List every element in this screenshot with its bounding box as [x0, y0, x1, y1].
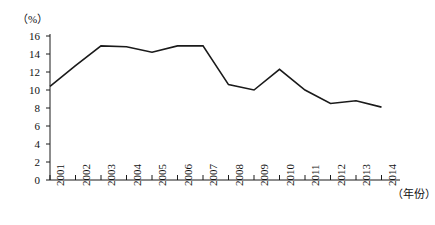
axes: [50, 34, 400, 180]
x-axis-tick-label: 2008: [234, 164, 245, 186]
x-axis-tick-label: 2010: [285, 164, 296, 186]
y-axis-tick-label: 2: [20, 157, 40, 168]
x-axis-tick-label: 2012: [336, 164, 347, 186]
data-series-line: [50, 46, 382, 107]
y-axis-tick-label: 0: [20, 175, 40, 186]
x-axis-tick-label: 2005: [157, 164, 168, 186]
x-axis-tick-label: 2003: [106, 164, 117, 186]
x-axis-tick-label: 2006: [183, 164, 194, 186]
line-chart: （%） 0246810121416 2001200220032004200520…: [0, 0, 435, 225]
x-axis-tick-label: 2011: [310, 164, 321, 186]
x-axis-tick-label: 2007: [208, 164, 219, 186]
y-axis-tick-label: 16: [20, 31, 40, 42]
y-axis-tick-label: 10: [20, 85, 40, 96]
x-axis-tick-label: 2009: [259, 164, 270, 186]
x-axis-caption: （年份）: [392, 188, 435, 200]
x-axis-tick-label: 2014: [387, 164, 398, 186]
x-axis-tick-label: 2013: [361, 164, 372, 186]
y-axis-tick-label: 8: [20, 103, 40, 114]
chart-canvas: [0, 0, 435, 225]
y-axis-tick-label: 4: [20, 139, 40, 150]
x-axis-tick-label: 2004: [132, 164, 143, 186]
x-axis-tick-label: 2002: [81, 164, 92, 186]
x-axis-tick-label: 2001: [55, 164, 66, 186]
y-axis-ticks: [46, 36, 50, 180]
y-axis-tick-label: 12: [20, 67, 40, 78]
y-axis-tick-label: 14: [20, 49, 40, 60]
y-axis-tick-label: 6: [20, 121, 40, 132]
